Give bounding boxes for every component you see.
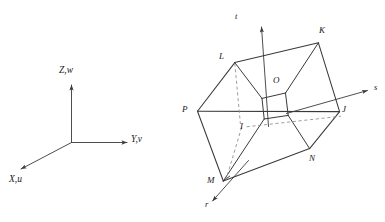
hidden-edge-I-J xyxy=(247,116,341,127)
edge-I-M-front xyxy=(223,119,264,181)
label-axis-x: X,u xyxy=(9,175,22,185)
label-vertex-I: I xyxy=(240,122,243,131)
edge-L-K xyxy=(235,43,319,63)
label-vertex-P: P xyxy=(182,105,188,114)
label-axis-z: Z,w xyxy=(59,66,73,76)
edge-P-L xyxy=(198,63,235,112)
figure-canvas: Z,w Y,v X,u t s r P L K J N M I O xyxy=(0,0,385,222)
edge-innerO-down-right xyxy=(286,93,289,115)
label-vertex-O: O xyxy=(273,76,280,85)
label-vertex-M: M xyxy=(207,176,215,185)
axis-x-line xyxy=(21,143,72,170)
label-vertex-L: L xyxy=(219,52,224,61)
label-vertex-N: N xyxy=(309,154,315,163)
label-axis-t: t xyxy=(235,12,237,21)
solid-outline-group xyxy=(198,43,340,181)
edge-O-K xyxy=(286,43,319,93)
solid-hidden-edges-group xyxy=(226,63,341,180)
edge-M-N xyxy=(223,149,309,181)
label-vertex-J: J xyxy=(342,105,346,114)
edge-innerO-down-left xyxy=(262,98,264,119)
hidden-edge-I-M xyxy=(226,127,242,180)
local-axes-group xyxy=(213,27,368,201)
label-vertex-K: K xyxy=(319,26,325,35)
label-axis-y: Y,v xyxy=(131,135,142,145)
global-axes-group xyxy=(21,85,127,169)
edge-P-M xyxy=(198,111,224,181)
label-axis-r: r xyxy=(205,200,208,209)
diagram-svg xyxy=(0,0,385,222)
axis-s-line xyxy=(287,91,368,114)
edge-L-innerO xyxy=(235,63,262,99)
hidden-edge-L-I xyxy=(235,63,241,124)
label-axis-s: s xyxy=(374,83,377,92)
edge-innerO-top xyxy=(262,93,286,98)
